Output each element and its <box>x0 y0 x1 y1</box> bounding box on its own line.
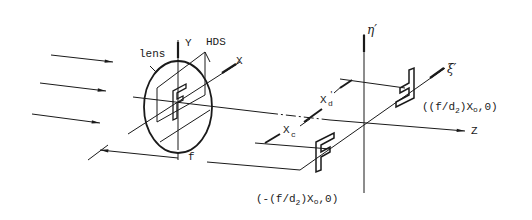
upper-tick <box>334 86 342 93</box>
f-label: f <box>188 151 195 163</box>
svg-text:X: X <box>320 94 327 106</box>
f-tick-left <box>88 145 108 160</box>
hds-label: HDS <box>206 36 226 48</box>
xc-line <box>255 143 330 149</box>
eta-prime-label: η′ <box>367 23 377 37</box>
xc-arrow-icon <box>265 134 280 143</box>
z-axis <box>330 120 465 131</box>
svg-text:X: X <box>283 124 290 136</box>
xi-prime-label: ξ′ <box>447 62 457 76</box>
optical-axis-dashed <box>268 113 330 120</box>
xi-prime-arrow-icon <box>430 68 444 78</box>
positive-point-label: ((f/d2)Xo,0) <box>422 101 498 115</box>
ray-arrow-icon <box>32 114 100 123</box>
svg-text:(-(f/d2)Xo,0): (-(f/d2)Xo,0) <box>256 193 338 207</box>
y-axis-label: Y <box>185 37 192 49</box>
xc-label: X c <box>283 124 296 139</box>
svg-text:c: c <box>291 130 296 139</box>
svg-text:d: d <box>328 99 333 108</box>
optical-axis <box>133 97 268 113</box>
hds-leader <box>205 52 210 62</box>
xd-prime-label: X d ′ <box>320 89 334 108</box>
xd-arrow-icon <box>304 109 322 122</box>
x-axis-arrow-icon <box>222 64 236 73</box>
ray-arrow-icon <box>51 55 113 62</box>
lens-label: lens <box>139 48 165 60</box>
ray-arrow-icon <box>40 83 106 91</box>
negative-point-label: (-(f/d2)Xo,0) <box>256 193 338 207</box>
lens-leader <box>150 66 156 72</box>
lens-lower-diagonal <box>160 110 210 142</box>
svg-text:((f/d2)Xo,0): ((f/d2)Xo,0) <box>422 101 498 115</box>
optical-diagram: lens Y HDS X f η′ ξ′ Z X d ′ X c ((f/d2)… <box>0 0 532 220</box>
z-axis-label: Z <box>471 125 478 137</box>
x-axis-label: X <box>236 55 243 67</box>
incident-rays <box>32 55 113 123</box>
f-dimension-right <box>207 162 300 170</box>
svg-text:′: ′ <box>329 89 334 98</box>
